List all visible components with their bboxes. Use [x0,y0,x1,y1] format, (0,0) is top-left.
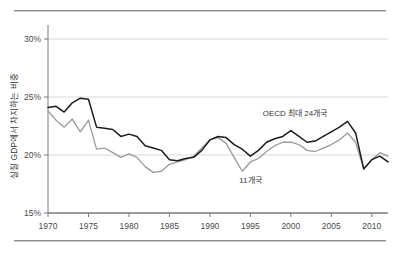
x-tick-label-1970: 1970 [39,221,58,231]
y-tick-label-20: 20% [24,150,41,160]
gridlines-group [48,39,388,213]
y-axis-label-group: 실질 GDP에서 차지하는 비중 [9,73,19,179]
figure-container: 30%25%20%15% 197019751980198519901995200… [0,0,400,253]
y-tick-label-30: 30% [24,34,41,44]
x-axis-ticks-group: 197019751980198519901995200020052010 [39,213,382,231]
y-tick-label-25: 25% [24,92,41,102]
y-axis-label: 실질 GDP에서 차지하는 비중 [9,73,19,179]
y-axis-ticks-group: 30%25%20%15% [24,34,48,218]
line-chart: 30%25%20%15% 197019751980198519901995200… [0,0,400,253]
series-line-oecd24 [48,98,388,169]
chart-plot-area: 30%25%20%15% 197019751980198519901995200… [0,0,400,253]
chart-annotation-oecd24: OECD 최대 24개국 [263,108,327,118]
x-tick-label-2010: 2010 [362,221,381,231]
x-tick-label-2000: 2000 [281,221,300,231]
x-tick-label-1975: 1975 [79,221,98,231]
x-tick-label-2005: 2005 [322,221,341,231]
series-line-countries11 [48,111,388,172]
annotations-group: OECD 최대 24개국11개국 [239,108,327,185]
chart-annotation-countries11: 11개국 [239,175,261,185]
x-tick-label-1985: 1985 [160,221,179,231]
x-tick-label-1995: 1995 [241,221,260,231]
y-tick-label-15: 15% [24,208,41,218]
data-series-group [48,98,388,172]
x-tick-label-1980: 1980 [119,221,138,231]
x-tick-label-1990: 1990 [200,221,219,231]
axes-group [48,25,388,213]
